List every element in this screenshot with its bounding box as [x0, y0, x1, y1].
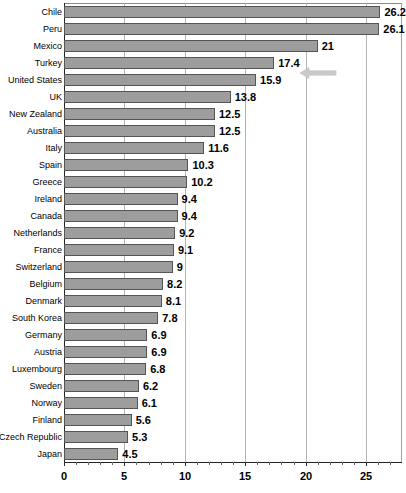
bar-value-label: 13.8 [235, 91, 256, 103]
x-minor-tick-22 [330, 462, 331, 465]
category-label: Czech Republic [0, 432, 62, 442]
bar [64, 312, 158, 324]
x-tick-15 [245, 462, 246, 466]
bar-value-label: 6.9 [151, 346, 166, 358]
x-minor-tick-12 [209, 462, 210, 465]
bar-value-label: 9.2 [179, 227, 194, 239]
bar [64, 23, 379, 35]
bar [64, 6, 380, 18]
category-label: Sweden [29, 381, 62, 391]
x-minor-tick-21 [318, 462, 319, 465]
x-tick-label-25: 25 [346, 470, 386, 483]
x-minor-tick-2 [88, 462, 89, 465]
x-tick-20 [306, 462, 307, 466]
x-minor-tick-3 [100, 462, 101, 465]
bar-value-label: 26.1 [383, 23, 404, 35]
category-label: Australia [27, 126, 62, 136]
bar-value-label: 9.1 [178, 244, 193, 256]
bar-value-label: 9.4 [182, 210, 197, 222]
bar-value-label: 12.5 [219, 108, 240, 120]
x-tick-10 [185, 462, 186, 466]
left-arrow-icon [298, 65, 338, 81]
category-label: Denmark [25, 296, 62, 306]
x-tick-label-0: 0 [44, 470, 84, 483]
x-minor-tick-14 [233, 462, 234, 465]
category-label: Ireland [34, 194, 62, 204]
bar-value-label: 15.9 [260, 74, 281, 86]
gridline-20 [306, 3, 307, 462]
bar [64, 57, 274, 69]
x-minor-tick-9 [173, 462, 174, 465]
category-label: Luxembourg [12, 364, 62, 374]
x-tick-0 [64, 462, 65, 466]
x-minor-tick-1 [76, 462, 77, 465]
bar [64, 74, 256, 86]
x-tick-label-20: 20 [286, 470, 326, 483]
bar-value-label: 10.2 [191, 176, 212, 188]
category-label: New Zealand [9, 109, 62, 119]
bar [64, 142, 204, 154]
category-label: United States [8, 75, 62, 85]
x-tick-label-10: 10 [165, 470, 205, 483]
x-tick-5 [124, 462, 125, 466]
x-minor-tick-27 [390, 462, 391, 465]
bar-value-label: 5.3 [132, 431, 147, 443]
bar-value-label: 8.1 [166, 295, 181, 307]
bar [64, 448, 118, 460]
bar-value-label: 21 [322, 40, 334, 52]
bar-value-label: 12.5 [219, 125, 240, 137]
bar [64, 176, 187, 188]
bar-value-label: 8.2 [167, 278, 182, 290]
gridline-25 [366, 3, 367, 462]
bar [64, 244, 174, 256]
bar [64, 91, 231, 103]
x-minor-tick-24 [354, 462, 355, 465]
category-label: Norway [31, 398, 62, 408]
x-minor-tick-26 [378, 462, 379, 465]
category-label: Switzerland [15, 262, 62, 272]
category-label: Turkey [35, 58, 62, 68]
plot-frame-top [64, 3, 402, 4]
bar-value-label: 9 [177, 261, 183, 273]
category-label: Netherlands [13, 228, 62, 238]
bar [64, 227, 175, 239]
category-label: Belgium [29, 279, 62, 289]
bar [64, 278, 163, 290]
bar-chart: 0510152025 Chile26.2Peru26.1Mexico21Turk… [0, 0, 406, 493]
bar-value-label: 6.9 [151, 329, 166, 341]
x-minor-tick-6 [136, 462, 137, 465]
category-label: Spain [39, 160, 62, 170]
bar [64, 397, 138, 409]
category-label: Chile [41, 7, 62, 17]
bar [64, 193, 178, 205]
bar [64, 329, 147, 341]
category-label: Canada [30, 211, 62, 221]
bar [64, 363, 146, 375]
category-label: Austria [34, 347, 62, 357]
bar-value-label: 6.1 [142, 397, 157, 409]
bar [64, 108, 215, 120]
category-label: Germany [25, 330, 62, 340]
bar-value-label: 5.6 [136, 414, 151, 426]
category-label: UK [49, 92, 62, 102]
bar-value-label: 6.8 [150, 363, 165, 375]
category-label: Italy [45, 143, 62, 153]
bar [64, 125, 215, 137]
bar-value-label: 9.4 [182, 193, 197, 205]
x-minor-tick-16 [257, 462, 258, 465]
x-tick-label-5: 5 [104, 470, 144, 483]
category-label: Mexico [33, 41, 62, 51]
x-tick-label-15: 15 [225, 470, 265, 483]
x-minor-tick-17 [269, 462, 270, 465]
gridline-15 [245, 3, 246, 462]
bar-value-label: 17.4 [278, 57, 299, 69]
bar [64, 159, 188, 171]
x-minor-tick-23 [342, 462, 343, 465]
category-label: Finland [32, 415, 62, 425]
category-label: South Korea [12, 313, 62, 323]
bar [64, 295, 162, 307]
category-label: France [34, 245, 62, 255]
bar [64, 261, 173, 273]
category-label: Peru [43, 24, 62, 34]
bar-value-label: 7.8 [162, 312, 177, 324]
